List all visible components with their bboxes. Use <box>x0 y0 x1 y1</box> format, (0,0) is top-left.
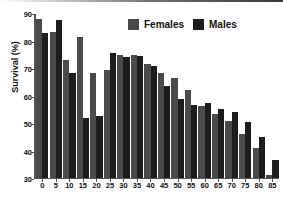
bar-group-age-45 <box>157 14 171 178</box>
bar-group-age-35 <box>130 14 144 178</box>
bar-group-age-85 <box>266 14 280 178</box>
x-tick-85: 85 <box>266 181 280 190</box>
x-tick-5: 5 <box>49 181 63 190</box>
y-tickmark-60 <box>31 97 34 98</box>
chart-legend: Females Males <box>128 19 237 30</box>
x-tick-50: 50 <box>171 181 185 190</box>
bar-group-age-0 <box>36 14 50 178</box>
bar-males-age-70 <box>232 112 238 177</box>
bar-males-age-60 <box>205 103 211 177</box>
y-tickmark-90 <box>31 14 34 15</box>
bar-group-age-5 <box>49 14 63 178</box>
x-tick-30: 30 <box>117 181 131 190</box>
bar-group-age-40 <box>144 14 158 178</box>
y-tickmark-50 <box>31 124 34 125</box>
y-tickmark-30 <box>31 179 34 180</box>
y-axis-tick-labels: 30405060708090 <box>12 0 32 198</box>
bar-group-age-30 <box>117 14 131 178</box>
x-axis-tick-labels: 0510152025303540455055606570758085 <box>36 181 280 190</box>
legend-swatch-males-icon <box>193 19 204 30</box>
legend-label-females: Females <box>144 19 184 30</box>
legend-swatch-females-icon <box>128 19 139 30</box>
bar-males-age-20 <box>96 116 102 178</box>
x-tick-25: 25 <box>103 181 117 190</box>
bar-males-age-30 <box>123 57 129 178</box>
x-tick-60: 60 <box>198 181 212 190</box>
bar-group-age-25 <box>103 14 117 178</box>
x-axis-line <box>34 178 279 180</box>
bar-males-age-10 <box>69 73 75 178</box>
x-tick-70: 70 <box>225 181 239 190</box>
bar-males-age-0 <box>42 33 48 177</box>
x-tick-20: 20 <box>90 181 104 190</box>
bar-males-age-45 <box>164 86 170 178</box>
x-tick-0: 0 <box>36 181 50 190</box>
x-tick-35: 35 <box>130 181 144 190</box>
bar-group-age-50 <box>171 14 185 178</box>
x-tick-10: 10 <box>63 181 77 190</box>
x-tick-40: 40 <box>144 181 158 190</box>
y-tickmark-70 <box>31 69 34 70</box>
bar-males-age-50 <box>178 99 184 178</box>
bar-males-age-5 <box>56 20 62 177</box>
x-tick-65: 65 <box>211 181 225 190</box>
x-tick-55: 55 <box>184 181 198 190</box>
bar-group-age-60 <box>198 14 212 178</box>
bar-males-age-25 <box>110 53 116 177</box>
legend-item-males: Males <box>193 19 237 30</box>
bar-males-age-40 <box>151 66 157 178</box>
bar-males-age-65 <box>218 109 224 177</box>
bar-group-age-70 <box>225 14 239 178</box>
legend-label-males: Males <box>209 19 237 30</box>
bar-group-age-10 <box>63 14 77 178</box>
survival-bar-chart: Survival (%) 30405060708090 051015202530… <box>0 0 283 198</box>
x-tick-45: 45 <box>157 181 171 190</box>
bar-group-age-65 <box>211 14 225 178</box>
bar-group-age-75 <box>238 14 252 178</box>
bar-group-age-15 <box>76 14 90 178</box>
bar-males-age-85 <box>272 160 278 178</box>
legend-item-females: Females <box>128 19 184 30</box>
bar-group-age-20 <box>90 14 104 178</box>
bar-males-age-15 <box>83 118 89 177</box>
bar-males-age-35 <box>137 56 143 178</box>
x-tick-75: 75 <box>238 181 252 190</box>
bar-groups <box>36 14 280 178</box>
x-tick-80: 80 <box>252 181 266 190</box>
bar-group-age-55 <box>184 14 198 178</box>
image-top-edge-artifact <box>0 0 283 2</box>
bar-males-age-55 <box>191 105 197 177</box>
bar-males-age-80 <box>259 137 265 178</box>
plot-area <box>34 14 279 179</box>
y-tickmark-40 <box>31 152 34 153</box>
y-tickmark-80 <box>31 42 34 43</box>
x-tick-15: 15 <box>76 181 90 190</box>
bar-group-age-80 <box>252 14 266 178</box>
bar-males-age-75 <box>245 122 251 178</box>
